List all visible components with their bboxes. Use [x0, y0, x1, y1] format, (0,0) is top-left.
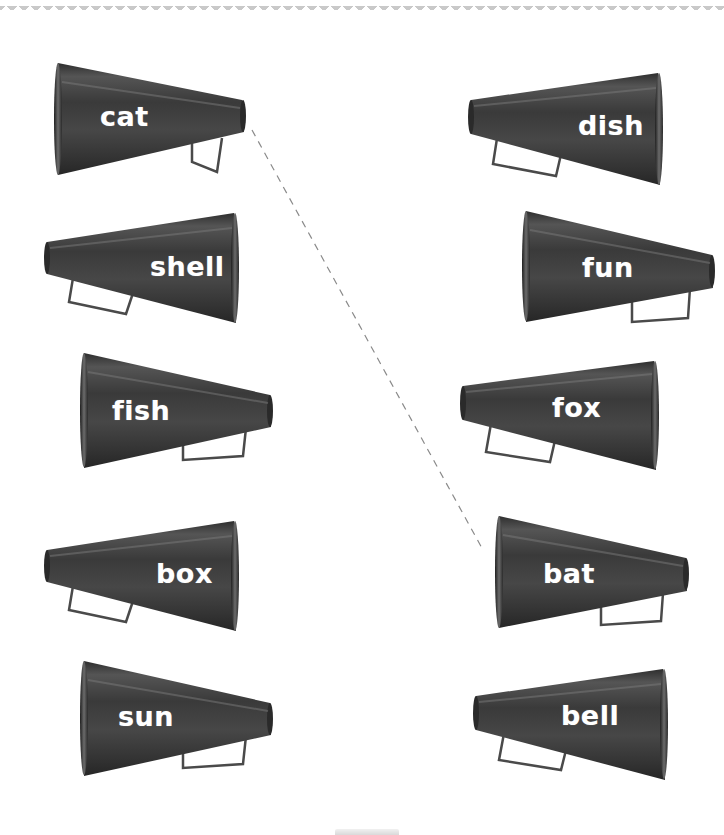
word-label: cat [100, 103, 149, 130]
megaphone-icon [78, 658, 278, 783]
megaphone-left-4[interactable]: box [44, 518, 244, 638]
word-label: box [156, 560, 213, 587]
word-label: dish [578, 112, 644, 139]
megaphone-icon [52, 60, 252, 180]
word-label: shell [150, 253, 225, 280]
megaphone-icon [44, 518, 244, 638]
word-label: sun [118, 703, 174, 730]
megaphone-right-1[interactable]: dish [468, 70, 668, 190]
word-label: fun [582, 254, 634, 281]
megaphone-right-4[interactable]: bat [493, 513, 693, 633]
word-label: fish [112, 397, 170, 424]
word-label: bell [561, 702, 619, 729]
megaphone-icon [78, 350, 278, 475]
megaphone-left-3[interactable]: fish [78, 350, 278, 475]
matching-worksheet: cat shell fish box [0, 0, 724, 835]
word-label: fox [552, 394, 601, 421]
megaphone-right-2[interactable]: fun [520, 208, 720, 328]
megaphone-left-1[interactable]: cat [52, 60, 252, 180]
bottom-tab [335, 829, 399, 835]
megaphone-right-5[interactable]: bell [473, 666, 673, 786]
word-label: bat [543, 560, 595, 587]
megaphone-left-5[interactable]: sun [78, 658, 278, 783]
megaphone-right-3[interactable]: fox [460, 358, 665, 478]
megaphone-left-2[interactable]: shell [44, 210, 244, 330]
